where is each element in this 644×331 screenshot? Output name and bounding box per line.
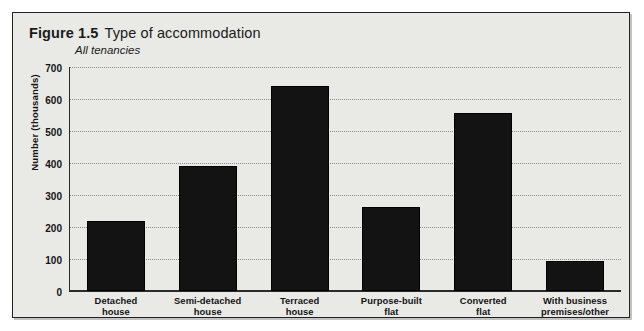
x-label-semi-detached-house: Semi-detached house: [162, 295, 254, 317]
y-tick-0: 0: [56, 287, 62, 298]
bar-slot: [254, 67, 346, 291]
x-label-detached-house: Detached house: [70, 295, 162, 317]
x-label-line2: house: [194, 306, 222, 317]
x-label-line1: Detached: [95, 295, 138, 306]
y-tick-300: 300: [45, 191, 62, 202]
y-tick-200: 200: [45, 223, 62, 234]
bar-purpose-built-flat[interactable]: [362, 207, 420, 291]
x-label-line2: house: [102, 306, 130, 317]
bar-terraced-house[interactable]: [271, 86, 329, 291]
bar-series: [70, 67, 621, 291]
y-tick-700: 700: [45, 63, 62, 74]
x-label-line2: flat: [384, 306, 398, 317]
x-label-line1: Terraced: [280, 295, 319, 306]
bar-with-business-premises-other[interactable]: [546, 261, 604, 291]
bar-semi-detached-house[interactable]: [179, 166, 237, 291]
bar-slot: [437, 67, 529, 291]
plot-region: 700 600 500 400 300 200 100: [69, 67, 621, 291]
x-label-line1: Converted: [460, 295, 507, 306]
x-label-line1: Semi-detached: [174, 295, 241, 306]
x-axis-labels: Detached house Semi-detached house Terra…: [70, 295, 621, 317]
gridline-0: 0: [69, 291, 621, 292]
y-tick-400: 400: [45, 159, 62, 170]
bar-slot: [529, 67, 621, 291]
bar-converted-flat[interactable]: [454, 113, 512, 291]
x-label-converted-flat: Converted flat: [437, 295, 529, 317]
figure-panel: Figure 1.5Type of accommodation All tena…: [12, 12, 630, 318]
x-label-terraced-house: Terraced house: [254, 295, 346, 317]
x-label-line2: flat: [476, 306, 490, 317]
y-tick-500: 500: [45, 127, 62, 138]
x-label-line2: house: [286, 306, 314, 317]
bar-slot: [70, 67, 162, 291]
x-label-purpose-built-flat: Purpose-built flat: [345, 295, 437, 317]
y-axis-label: Number (thousands): [29, 58, 40, 188]
bar-slot: [162, 67, 254, 291]
x-label-line1: With business: [543, 295, 607, 306]
chart-area: Number (thousands) 700 600 500 400 300: [13, 13, 631, 319]
bar-slot: [345, 67, 437, 291]
y-tick-100: 100: [45, 255, 62, 266]
x-label-with-business-premises-other: With business premises/other: [529, 295, 621, 317]
x-label-line1: Purpose-built: [361, 295, 422, 306]
x-label-line2: premises/other: [541, 306, 609, 317]
bar-detached-house[interactable]: [87, 221, 145, 291]
y-tick-600: 600: [45, 95, 62, 106]
